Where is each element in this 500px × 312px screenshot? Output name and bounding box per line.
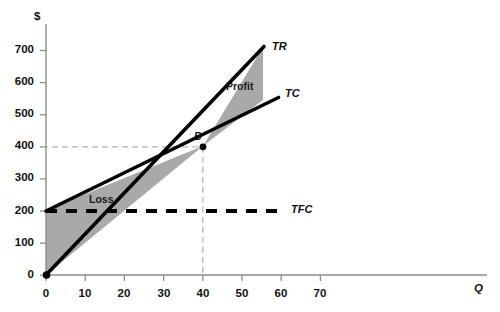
x-tick-label-60: 60 bbox=[261, 288, 301, 300]
y-tick-label-0: 0 bbox=[0, 269, 34, 281]
y-tick-label-300: 300 bbox=[0, 172, 34, 184]
x-tick-label-50: 50 bbox=[222, 288, 262, 300]
breakeven-point-label: B bbox=[194, 131, 202, 142]
origin-point bbox=[43, 271, 51, 279]
chart-canvas bbox=[0, 0, 500, 312]
profit-region-label: Profit bbox=[226, 81, 253, 92]
breakeven-point bbox=[200, 143, 207, 150]
y-tick-label-600: 600 bbox=[0, 76, 34, 88]
y-tick-label-200: 200 bbox=[0, 205, 34, 217]
loss-region-label: Loss bbox=[89, 194, 114, 205]
x-tick-label-0: 0 bbox=[26, 288, 66, 300]
y-tick-label-500: 500 bbox=[0, 108, 34, 120]
x-tick-label-30: 30 bbox=[144, 288, 184, 300]
break-even-chart: $ 700 600 500 400 300 200 100 0 0 10 20 … bbox=[0, 0, 500, 312]
y-tick-label-700: 700 bbox=[0, 44, 34, 56]
x-tick-label-10: 10 bbox=[65, 288, 105, 300]
x-tick-label-40: 40 bbox=[183, 288, 223, 300]
y-tick-label-400: 400 bbox=[0, 140, 34, 152]
y-axis-ticks bbox=[40, 51, 46, 276]
x-tick-label-20: 20 bbox=[104, 288, 144, 300]
x-axis-title: Q bbox=[474, 283, 483, 295]
x-tick-label-70: 70 bbox=[300, 288, 340, 300]
y-axis-title: $ bbox=[34, 11, 40, 23]
tr-series-label: TR bbox=[272, 41, 287, 52]
tfc-series-label: TFC bbox=[291, 204, 312, 215]
y-tick-label-100: 100 bbox=[0, 237, 34, 249]
x-axis-ticks bbox=[46, 275, 320, 281]
tc-series-label: TC bbox=[285, 88, 300, 99]
